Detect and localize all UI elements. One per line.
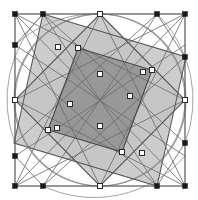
construction-canvas <box>0 0 198 200</box>
node-mid-right-edge <box>128 94 133 99</box>
node-bottom-right-mid <box>155 184 160 189</box>
node-left-upper-mid <box>13 43 18 48</box>
geometric-figure <box>0 0 198 200</box>
node-cross-lower-left <box>55 126 60 131</box>
node-lower-mid <box>98 124 103 129</box>
node-inner-left <box>46 128 51 133</box>
node-frame-top-right <box>183 12 188 17</box>
node-bottom-left-mid <box>41 184 46 189</box>
node-frame-bottom-right <box>183 184 188 189</box>
node-mid-left-edge <box>68 102 73 107</box>
node-left-lower-mid <box>13 154 18 159</box>
node-inner-upper <box>76 46 81 51</box>
node-frame-bottom-left <box>13 184 18 189</box>
node-upper-mid <box>98 72 103 77</box>
node-frame-top-left <box>13 12 18 17</box>
node-top-left-mid <box>41 12 46 17</box>
node-apex-right <box>183 98 188 103</box>
node-top-right-mid <box>155 12 160 17</box>
node-cross-upper-left <box>56 45 61 50</box>
node-inner-lower <box>120 150 125 155</box>
node-apex-top <box>98 12 103 17</box>
node-right-lower-mid <box>183 141 188 146</box>
node-cross-lower-right <box>140 151 145 156</box>
node-cross-upper-right <box>141 70 146 75</box>
node-right-upper-mid <box>183 55 188 60</box>
node-apex-left <box>13 98 18 103</box>
node-inner-right <box>150 68 155 73</box>
node-apex-bottom <box>98 184 103 189</box>
